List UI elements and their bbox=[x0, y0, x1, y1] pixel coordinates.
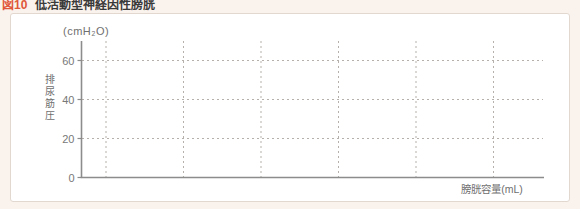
y-axis-unit-label: (cmH₂O) bbox=[63, 25, 109, 37]
chart-panel: 0204060 (cmH₂O) 排尿筋圧 膀胱容量(mL) bbox=[10, 13, 570, 202]
y-tick-label: 60 bbox=[62, 55, 74, 67]
y-tick-label: 0 bbox=[68, 172, 74, 184]
figure-title: 低活動型神経因性膀胱 bbox=[35, 0, 155, 12]
y-tick-label: 40 bbox=[62, 94, 74, 106]
figure-number-label: 図10 bbox=[2, 0, 27, 12]
y-axis-title: 排尿筋圧 bbox=[41, 74, 56, 154]
chart-svg: 0204060 bbox=[11, 14, 569, 201]
figure-header: 図10 低活動型神経因性膀胱 bbox=[2, 0, 155, 12]
page: 図10 低活動型神経因性膀胱 0204060 (cmH₂O) 排尿筋圧 膀胱容量… bbox=[0, 0, 580, 209]
x-axis-title: 膀胱容量(mL) bbox=[439, 181, 545, 196]
y-tick-label: 20 bbox=[62, 133, 74, 145]
